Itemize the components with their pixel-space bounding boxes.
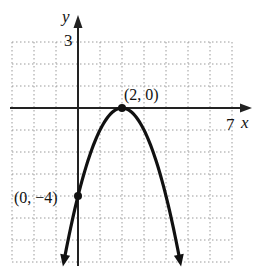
parabola-graph: y 3 7 x (2, 0) (0, −4) xyxy=(0,0,270,277)
axes xyxy=(10,15,252,266)
grid xyxy=(12,42,232,262)
point-marker xyxy=(74,192,82,200)
point-marker xyxy=(118,104,126,112)
y-intercept-label: (0, −4) xyxy=(14,189,58,207)
x-max-tick-label: 7 xyxy=(226,115,235,134)
y-axis-label: y xyxy=(60,7,70,26)
y-axis-arrow-icon xyxy=(74,15,83,28)
x-axis-label: x xyxy=(240,113,249,132)
curve-arrow-icon xyxy=(174,254,184,267)
curve-arrow-icon xyxy=(60,254,70,267)
vertex-label: (2, 0) xyxy=(124,86,159,104)
x-axis-arrow-icon xyxy=(240,104,252,113)
y-max-tick-label: 3 xyxy=(64,31,73,50)
